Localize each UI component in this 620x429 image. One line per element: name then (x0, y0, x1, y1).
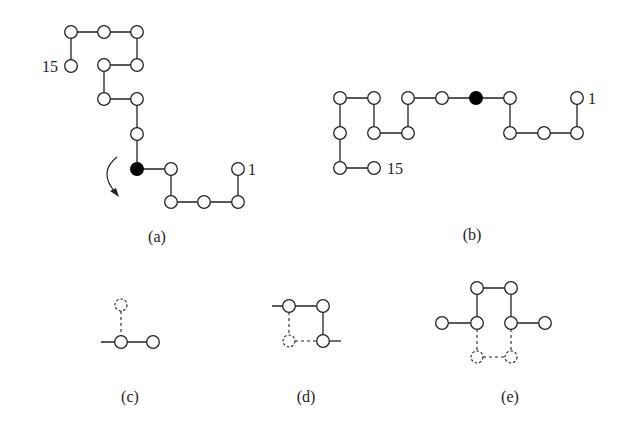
panel-d: (d) (272, 300, 341, 406)
caption-e: (e) (501, 388, 519, 406)
panel-b: 1 15 (b) (334, 90, 596, 244)
panel-e: (e) (436, 282, 552, 406)
residue-7 (131, 128, 144, 141)
crank-alternative-site (505, 351, 517, 363)
end-label-b: 15 (387, 160, 403, 177)
residue (471, 317, 484, 330)
crank-residue (505, 282, 518, 295)
alternative-site (115, 299, 127, 311)
residue-7 (436, 92, 449, 105)
pivot-residue (470, 92, 483, 105)
residue-5 (165, 163, 178, 176)
rotation-arrow-icon (107, 157, 119, 197)
residue-1 (232, 163, 245, 176)
residue-2 (232, 196, 245, 209)
chain-backbone-a (71, 32, 238, 202)
residue (539, 317, 552, 330)
neighbor-residue (147, 336, 160, 349)
residue-4 (165, 196, 178, 209)
residue-14 (65, 26, 78, 39)
residue-12 (334, 92, 347, 105)
crank-residue (471, 282, 484, 295)
residue-5 (504, 92, 517, 105)
residue-8 (131, 93, 144, 106)
residue-12 (131, 26, 144, 39)
pivot-residue (131, 163, 144, 176)
residue-10 (98, 59, 111, 72)
start-label-a: 1 (248, 161, 256, 178)
residue-13 (98, 26, 111, 39)
residue-1 (571, 92, 584, 105)
panel-c: (c) (101, 299, 159, 406)
residue-3 (538, 127, 551, 140)
residue-10 (368, 127, 381, 140)
residue-8 (402, 92, 415, 105)
residue (283, 300, 296, 313)
residue-14 (334, 162, 347, 175)
residue (436, 317, 449, 330)
residue-9 (98, 93, 111, 106)
caption-b: (b) (463, 226, 482, 244)
flipped-corner-site (283, 335, 295, 347)
panel-a: 1 15 (a) (42, 26, 256, 246)
residue-11 (368, 92, 381, 105)
crank-alternative-site (471, 351, 483, 363)
residue (317, 335, 330, 348)
caption-d: (d) (297, 388, 316, 406)
lattice-chain-diagram: 1 15 (a) 1 15 (b) (c) (0, 0, 620, 429)
corner-residue (317, 300, 330, 313)
residue-13 (334, 127, 347, 140)
residue-3 (198, 196, 211, 209)
residue-15 (65, 60, 78, 73)
caption-c: (c) (121, 388, 139, 406)
end-label-a: 15 (42, 58, 58, 75)
end-residue (115, 336, 128, 349)
residue (505, 317, 518, 330)
start-label-b: 1 (588, 90, 596, 107)
residue-9 (402, 127, 415, 140)
residue-4 (504, 127, 517, 140)
residue-11 (131, 59, 144, 72)
residue-2 (571, 127, 584, 140)
residue-15 (368, 162, 381, 175)
caption-a: (a) (148, 228, 166, 246)
